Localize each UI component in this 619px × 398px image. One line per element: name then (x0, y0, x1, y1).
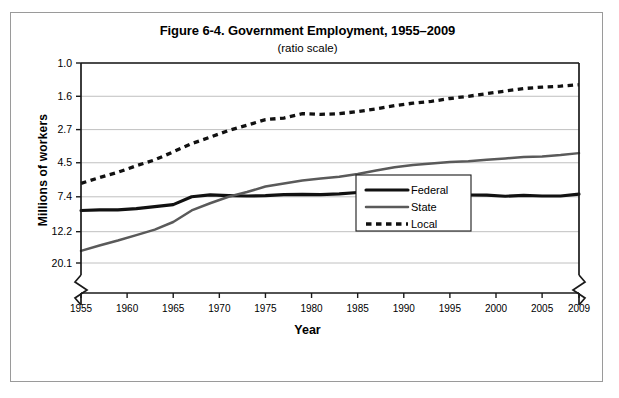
legend-label-local: Local (411, 218, 437, 230)
x-tick-labels: 1955196019651970197519801985199019952000… (70, 303, 591, 314)
x-tick-label: 1980 (300, 303, 323, 314)
legend-label-federal: Federal (411, 184, 448, 196)
y-tick-label: 20.1 (52, 257, 73, 269)
series-line-state (81, 153, 579, 251)
axis-lines (75, 63, 585, 305)
x-tick-label: 2000 (485, 303, 508, 314)
y-tick-label: 7.4 (57, 190, 72, 202)
series-line-federal (81, 188, 579, 211)
x-tick-label: 1965 (162, 303, 185, 314)
y-tick-labels: 20.112.27.44.52.71.61.0 (52, 57, 73, 269)
y-tick-label: 12.2 (52, 225, 73, 237)
chart-legend: FederalStateLocal (356, 175, 471, 231)
y-tick-label: 1.0 (57, 57, 72, 69)
chart-plot: 20.112.27.44.52.71.61.0 1955196019651970… (11, 13, 604, 383)
y-tick-label: 1.6 (57, 90, 72, 102)
data-series-group (81, 85, 579, 251)
x-tick-label: 1960 (116, 303, 139, 314)
y-tick-label: 2.7 (57, 123, 72, 135)
legend-label-state: State (411, 201, 437, 213)
x-tick-label: 1995 (439, 303, 462, 314)
series-line-local (81, 85, 579, 184)
figure-frame: Figure 6-4. Government Employment, 1955–… (10, 12, 603, 382)
x-tick-label: 1985 (347, 303, 370, 314)
x-tick-label: 1970 (208, 303, 231, 314)
x-tick-label: 2005 (531, 303, 554, 314)
y-tick-label: 4.5 (57, 156, 72, 168)
gridlines (81, 63, 579, 263)
x-tick-label: 1975 (254, 303, 277, 314)
x-tick-label: 1990 (393, 303, 416, 314)
